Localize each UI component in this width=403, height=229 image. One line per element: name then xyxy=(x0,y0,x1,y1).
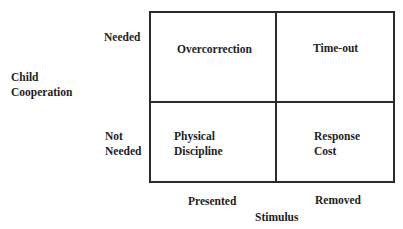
y-axis-title-line2: Cooperation xyxy=(11,85,72,100)
cell-physical-discipline-line1: Physical xyxy=(174,129,223,144)
cell-physical-discipline: Physical Discipline xyxy=(174,129,223,158)
y-axis-title: Child Cooperation xyxy=(11,70,72,99)
cell-response-cost-line2: Cost xyxy=(314,144,360,159)
cell-response-cost: Response Cost xyxy=(314,129,360,158)
row-label-not-needed: Not Needed xyxy=(105,129,141,158)
cell-response-cost-line1: Response xyxy=(314,129,360,144)
cell-physical-discipline-line2: Discipline xyxy=(174,144,223,159)
row-label-needed: Needed xyxy=(104,30,140,45)
row-label-not-needed-line1: Not xyxy=(105,129,141,144)
row-label-not-needed-line2: Needed xyxy=(105,144,141,159)
column-label-removed: Removed xyxy=(315,193,361,208)
cell-time-out-text: Time-out xyxy=(313,41,358,56)
grid-horizontal-divider xyxy=(151,101,393,103)
cell-time-out: Time-out xyxy=(313,41,358,56)
grid-vertical-divider xyxy=(275,13,277,181)
x-axis-title: Stimulus xyxy=(255,210,298,225)
y-axis-title-line1: Child xyxy=(11,70,72,85)
row-label-needed-text: Needed xyxy=(104,30,140,45)
column-label-presented: Presented xyxy=(188,194,236,209)
cell-overcorrection: Overcorrection xyxy=(177,42,252,57)
cell-overcorrection-text: Overcorrection xyxy=(177,42,252,57)
